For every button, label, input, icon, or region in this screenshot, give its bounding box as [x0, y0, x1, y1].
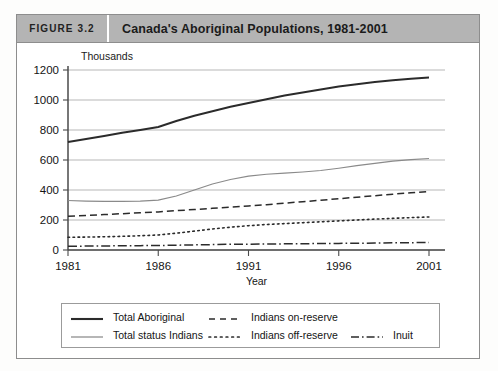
- legend-swatch-solid-thick: [70, 311, 104, 323]
- legend-label: Total Aboriginal: [113, 311, 184, 323]
- y-axis-unit-label: Thousands: [81, 50, 133, 62]
- legend-label: Indians off-reserve: [251, 329, 338, 341]
- y-axis-tick-label: 0: [53, 244, 59, 256]
- y-axis-tick-label: 800: [40, 124, 59, 136]
- legend-label: Inuit: [393, 329, 413, 341]
- x-axis-tick-label: 2001: [416, 260, 442, 272]
- x-axis-title: Year: [246, 275, 268, 287]
- legend-item: Inuit: [350, 326, 413, 344]
- x-axis-tick-label: 1991: [236, 260, 262, 272]
- series-line-inuit: [68, 243, 429, 247]
- legend-label: Indians on-reserve: [251, 311, 338, 323]
- figure-page: FIGURE 3.2 Canada's Aboriginal Populatio…: [0, 0, 498, 371]
- figure-number: FIGURE 3.2: [17, 15, 109, 42]
- legend-swatch-dotted: [208, 329, 242, 341]
- legend-item: Indians off-reserve: [208, 326, 338, 344]
- figure-title: Canada's Aboriginal Populations, 1981-20…: [109, 15, 479, 42]
- chart-legend: Total AboriginalTotal status IndiansIndi…: [61, 303, 440, 348]
- y-axis-tick-label: 600: [40, 154, 59, 166]
- series-line-indians-on-reserve: [68, 192, 429, 217]
- legend-swatch-dashed: [208, 311, 242, 323]
- y-axis-tick-label: 1200: [33, 64, 59, 76]
- legend-item: Indians on-reserve: [208, 308, 338, 326]
- legend-label: Total status Indians: [113, 329, 203, 341]
- series-line-total-status-indians: [68, 159, 429, 202]
- legend-swatch-dash-dot: [350, 329, 384, 341]
- legend-item: Total Aboriginal: [70, 308, 184, 326]
- legend-swatch-solid-thin-gray: [70, 329, 104, 341]
- legend-item: Total status Indians: [70, 326, 203, 344]
- y-axis-tick-label: 200: [40, 214, 59, 226]
- x-axis-tick-label: 1986: [145, 260, 171, 272]
- y-axis-tick-label: 1000: [33, 94, 59, 106]
- series-line-total-aboriginal: [68, 78, 429, 143]
- y-axis-tick-label: 400: [40, 184, 59, 196]
- x-axis-tick-label: 1996: [326, 260, 352, 272]
- x-axis-tick-label: 1981: [55, 260, 81, 272]
- figure-title-band: FIGURE 3.2 Canada's Aboriginal Populatio…: [17, 15, 479, 43]
